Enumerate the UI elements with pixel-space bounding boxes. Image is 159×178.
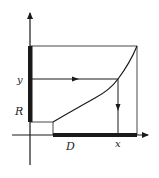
label-x: x	[115, 138, 121, 149]
domain-bar	[53, 133, 137, 137]
range-bar	[28, 46, 33, 122]
down-arrow-icon	[116, 104, 121, 111]
function-curve	[53, 46, 137, 122]
label-domain: D	[65, 140, 75, 153]
label-y: y	[16, 74, 23, 85]
label-range: R	[14, 105, 23, 118]
function-diagram: y R D x	[0, 0, 159, 178]
right-arrow-icon	[72, 77, 79, 82]
